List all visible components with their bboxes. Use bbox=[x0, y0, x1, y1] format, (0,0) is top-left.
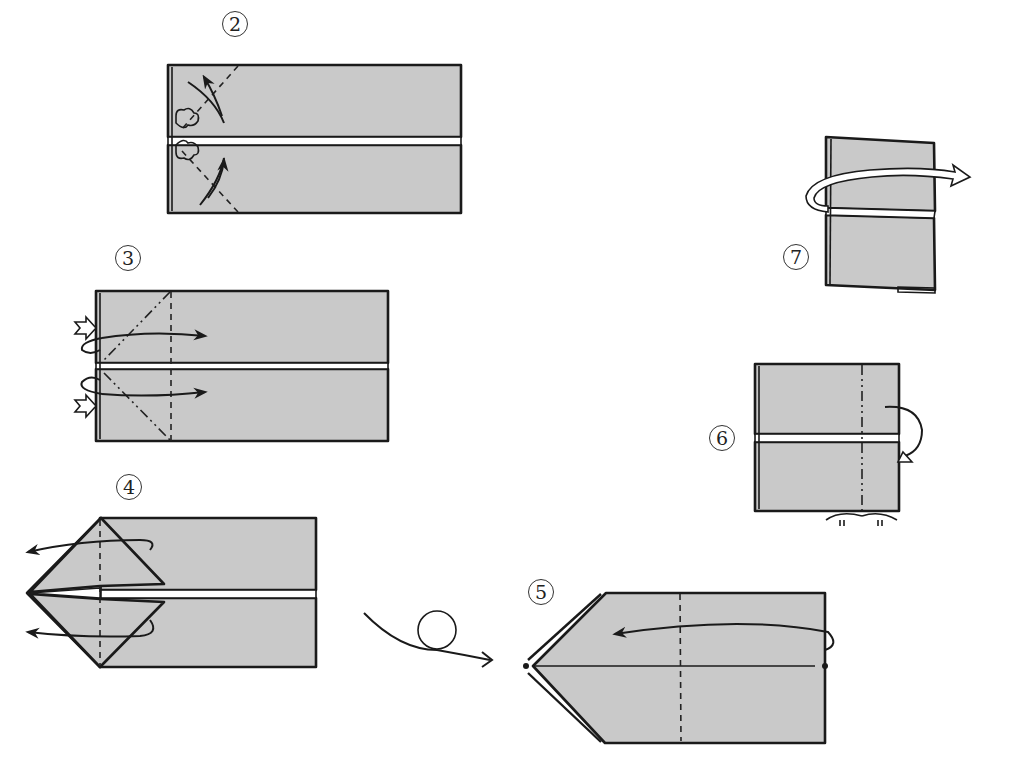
reference-point bbox=[523, 663, 529, 669]
step-4-figure bbox=[27, 518, 316, 667]
reference-point bbox=[822, 663, 828, 669]
step-6-figure bbox=[755, 364, 922, 526]
turn-over-icon bbox=[364, 611, 492, 667]
origami-diagram bbox=[0, 0, 1011, 766]
equal-distance-icon bbox=[826, 514, 897, 526]
push-arrow-icon bbox=[75, 395, 96, 417]
step-7-figure bbox=[806, 137, 970, 293]
step-2-figure bbox=[168, 65, 461, 213]
step-5-figure bbox=[523, 593, 833, 743]
step-3-figure bbox=[75, 291, 388, 441]
push-arrow-icon bbox=[75, 317, 96, 339]
